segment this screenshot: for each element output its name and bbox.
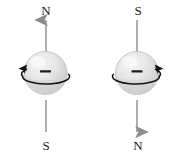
sphere-graphic-right [92,0,184,159]
sphere-graphic-left [0,0,92,159]
charge-sign-left [40,70,51,72]
sphere-panel-left: N S [0,0,92,159]
spinning-charged-sphere-diagram: N S [0,0,184,159]
charge-sign-right [132,70,143,72]
sphere-highlight-left [30,56,46,68]
sphere-highlight-right [122,56,138,68]
sphere-panel-right: S N [92,0,184,159]
